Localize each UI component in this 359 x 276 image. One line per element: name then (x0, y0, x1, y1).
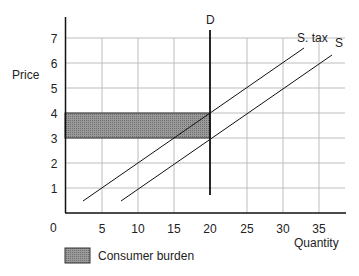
svg-text:6: 6 (51, 57, 58, 71)
demand-label: D (206, 13, 215, 27)
svg-text:30: 30 (276, 222, 290, 236)
svg-text:25: 25 (240, 222, 254, 236)
svg-text:20: 20 (203, 222, 217, 236)
y-axis-label: Price (12, 68, 39, 82)
svg-text:2: 2 (51, 157, 58, 171)
origin-label: 0 (50, 221, 57, 235)
svg-text:7: 7 (51, 32, 58, 46)
x-axis-label: Quantity (294, 236, 339, 250)
svg-text:35: 35 (312, 222, 326, 236)
y-tick-labels: 7 6 5 4 3 2 1 (51, 32, 58, 196)
svg-text:3: 3 (51, 132, 58, 146)
consumer-burden-area (65, 113, 210, 138)
svg-text:15: 15 (167, 222, 181, 236)
svg-text:5: 5 (99, 222, 106, 236)
svg-text:10: 10 (131, 222, 145, 236)
supply-label: S (335, 36, 343, 50)
legend-label: Consumer burden (98, 249, 194, 263)
svg-text:4: 4 (51, 107, 58, 121)
legend-swatch (65, 248, 90, 263)
supply-tax-label: S. tax (297, 31, 328, 45)
svg-text:5: 5 (51, 82, 58, 96)
x-tick-labels: 5 10 15 20 25 30 35 (99, 222, 326, 236)
svg-text:1: 1 (51, 182, 58, 196)
